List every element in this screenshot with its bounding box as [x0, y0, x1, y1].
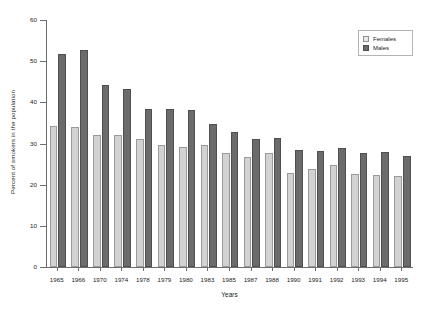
- x-tick-mark: [229, 267, 230, 271]
- x-tick-mark: [294, 267, 295, 271]
- bar-males: [102, 85, 110, 267]
- y-tick-label: 50: [0, 58, 37, 64]
- bar-group: [71, 20, 87, 267]
- x-tick-mark: [207, 267, 208, 271]
- bar-males: [188, 110, 196, 267]
- legend-swatch-males-icon: [363, 45, 369, 51]
- x-tick-mark: [337, 267, 338, 271]
- bar-group: [244, 20, 260, 267]
- bar-females: [330, 165, 338, 267]
- bar-females: [265, 153, 273, 267]
- x-tick-mark: [143, 267, 144, 271]
- x-tick-mark: [380, 267, 381, 271]
- y-tick-label: 40: [0, 99, 37, 105]
- bar-males: [123, 89, 131, 267]
- plot-area: [46, 20, 412, 267]
- x-tick-label: 1995: [386, 277, 416, 283]
- bar-females: [158, 145, 166, 267]
- bar-females: [308, 169, 316, 267]
- bar-males: [403, 156, 411, 267]
- bar-group: [136, 20, 152, 267]
- bar-males: [145, 109, 153, 267]
- y-tick-label: 20: [0, 182, 37, 188]
- bar-females: [244, 157, 252, 267]
- x-tick-mark: [57, 267, 58, 271]
- bar-group: [265, 20, 281, 267]
- bar-males: [252, 139, 260, 267]
- bar-females: [179, 147, 187, 267]
- bar-males: [231, 132, 239, 267]
- legend-item-males: Males: [363, 43, 408, 52]
- bar-group: [351, 20, 367, 267]
- bar-females: [351, 174, 359, 267]
- bar-group: [201, 20, 217, 267]
- bar-females: [50, 126, 58, 267]
- bar-females: [287, 173, 295, 267]
- bar-females: [373, 175, 381, 267]
- bar-males: [295, 150, 303, 267]
- y-tick-label: 60: [0, 17, 37, 23]
- x-tick-mark: [401, 267, 402, 271]
- bar-males: [80, 50, 88, 267]
- bar-males: [381, 152, 389, 267]
- bar-group: [222, 20, 238, 267]
- bar-males: [58, 54, 66, 267]
- bar-group: [93, 20, 109, 267]
- bar-group: [158, 20, 174, 267]
- x-tick-mark: [272, 267, 273, 271]
- legend-item-females: Females: [363, 34, 408, 43]
- bar-group: [287, 20, 303, 267]
- bar-females: [93, 135, 101, 267]
- chart-legend: Females Males: [358, 30, 413, 56]
- bar-group: [394, 20, 410, 267]
- bar-females: [394, 176, 402, 267]
- x-axis-title: Years: [46, 291, 413, 298]
- bar-females: [201, 145, 209, 267]
- y-tick-label: 30: [0, 141, 37, 147]
- bar-chart: Percent of smokers in the population 010…: [0, 0, 431, 312]
- x-tick-mark: [164, 267, 165, 271]
- legend-label-males: Males: [373, 45, 389, 51]
- bar-males: [338, 148, 346, 267]
- y-tick-label: 0: [0, 264, 37, 270]
- x-tick-mark: [78, 267, 79, 271]
- bar-males: [360, 153, 368, 267]
- bar-group: [330, 20, 346, 267]
- x-tick-mark: [358, 267, 359, 271]
- bar-females: [136, 139, 144, 267]
- bar-group: [308, 20, 324, 267]
- bar-males: [166, 109, 174, 267]
- bar-males: [317, 151, 325, 267]
- legend-swatch-females-icon: [363, 36, 369, 42]
- y-tick-mark: [40, 267, 46, 268]
- x-tick-mark: [251, 267, 252, 271]
- bar-males: [209, 124, 217, 267]
- bar-group: [179, 20, 195, 267]
- bar-group: [114, 20, 130, 267]
- bar-females: [71, 127, 79, 267]
- bar-females: [222, 153, 230, 267]
- x-tick-mark: [186, 267, 187, 271]
- bar-males: [274, 138, 282, 267]
- x-tick-mark: [121, 267, 122, 271]
- y-tick-label: 10: [0, 223, 37, 229]
- bar-group: [373, 20, 389, 267]
- legend-label-females: Females: [373, 36, 396, 42]
- bar-group: [50, 20, 66, 267]
- x-tick-mark: [315, 267, 316, 271]
- bar-females: [114, 135, 122, 267]
- x-tick-mark: [100, 267, 101, 271]
